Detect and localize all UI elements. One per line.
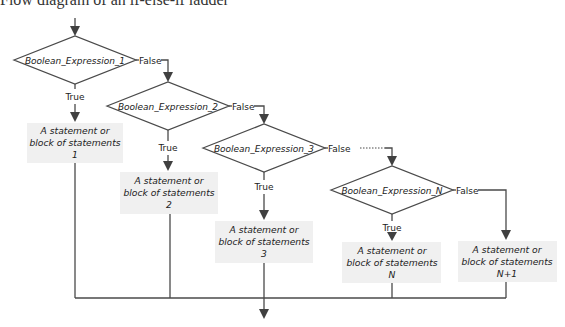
condition-2-true-label: True [157,143,178,153]
condition-1-label: Boolean_Expression_1 [25,56,125,66]
condition-1-false-branch: False [136,56,173,83]
statement-box-3: A statement or block of statements 3 [215,221,313,263]
condition-n-false-label: False [456,186,479,196]
condition-n-true-branch: True [381,214,402,241]
statement-2-line1: A statement or [134,175,205,186]
statement-1-line3: 1 [72,149,78,160]
statement-box-2: A statement or block of statements 2 [120,172,218,214]
condition-2-label: Boolean_Expression_2 [118,102,218,112]
condition-3-true-label: True [253,182,274,192]
if-else-if-flowchart: Boolean_Expression_1 False True A statem… [0,0,565,327]
condition-2: Boolean_Expression_2 [107,82,229,130]
statement-n1-line3: N+1 [497,268,517,279]
condition-1-false-label: False [139,56,162,66]
condition-1-true-branch: True [64,84,85,122]
statement-box-n: A statement or block of statements N [342,242,441,283]
statement-box-n-plus-1: A statement or block of statements N+1 [458,241,557,282]
condition-n-false-branch: False [453,186,511,241]
exit-arrow [259,263,269,319]
condition-1: Boolean_Expression_1 [14,36,136,84]
statement-3-line2: block of statements [218,236,309,247]
condition-3-label: Boolean_Expression_3 [214,144,314,154]
statement-box-1: A statement or block of statements 1 [27,123,123,163]
condition-2-false-branch: False [229,102,269,125]
condition-n: Boolean_Expression_N [331,166,453,214]
statement-n-line3: N [389,269,396,280]
statement-n-line2: block of statements [346,257,437,268]
statement-2-line3: 2 [166,199,172,210]
condition-2-true-branch: True [157,130,178,171]
statement-3-line1: A statement or [229,224,300,235]
condition-2-false-label: False [232,102,255,112]
condition-3-false-branch: False [325,144,397,167]
statement-1-line2: block of statements [29,137,120,148]
statement-n1-line1: A statement or [472,244,543,255]
statement-3-line3: 3 [261,248,267,259]
statement-n-line1: A statement or [357,245,428,256]
statement-n1-line2: block of statements [461,256,552,267]
condition-n-label: Boolean_Expression_N [341,186,442,196]
condition-1-true-label: True [64,92,85,102]
entry-arrow [70,18,80,36]
condition-3-true-branch: True [253,172,274,220]
condition-n-true-label: True [381,223,402,233]
statement-1-line1: A statement or [40,125,111,136]
condition-3-false-label: False [328,144,351,154]
statement-2-line2: block of statements [123,187,214,198]
condition-3: Boolean_Expression_3 [203,124,325,172]
